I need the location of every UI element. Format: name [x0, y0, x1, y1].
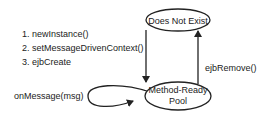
- state-label-line-1: Method-Ready: [148, 85, 208, 95]
- create-step-1: 1. newInstance(): [22, 29, 89, 39]
- state-label: Does Not Exist: [148, 16, 208, 26]
- state-label-line-2: Pool: [169, 96, 187, 106]
- on-message-transition-label: onMessage(msg): [14, 91, 84, 101]
- create-step-3: 3. ejbCreate: [22, 57, 71, 67]
- create-step-2: 2. setMessageDrivenContext(): [22, 43, 144, 53]
- remove-transition-label: ejbRemove(): [205, 63, 257, 73]
- state-diagram: Does Not Exist Method-Ready Pool 1. newI…: [0, 0, 268, 115]
- state-method-ready-pool: Method-Ready Pool: [145, 82, 211, 110]
- create-transition-label: 1. newInstance() 2. setMessageDrivenCont…: [22, 29, 144, 67]
- on-message-loop-arrow: [88, 86, 150, 107]
- state-does-not-exist: Does Not Exist: [146, 9, 210, 31]
